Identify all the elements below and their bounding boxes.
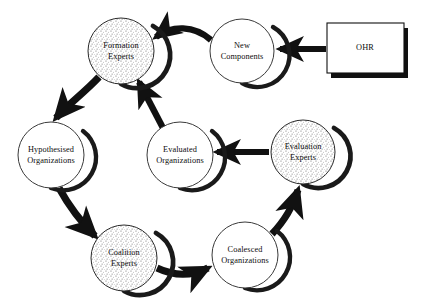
node-hypothesised-organizations [18,122,96,190]
node-coalition-experts [91,225,173,295]
node-formation-experts [88,18,170,88]
diagram-graphics [0,0,422,307]
node-new-components [210,19,289,87]
diagram-canvas: Formation Experts New Components OHR Hyp… [0,0,422,307]
node-coalesced-organizations [212,222,290,290]
node-ohr [327,23,408,78]
edge-coalition-experts-to-coalesced-organizations [157,268,208,274]
edge-formation-experts-to-hypothesised-organizations [56,77,99,118]
node-evaluated-organizations [147,122,225,190]
node-evaluation-experts [271,120,350,188]
edge-coalesced-organizations-to-evaluation-experts [272,190,298,234]
edge-hypothesised-organizations-to-coalition-experts [59,188,95,236]
